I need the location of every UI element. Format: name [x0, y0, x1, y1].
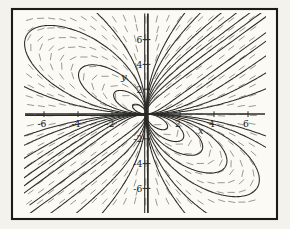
x-tick-label: 2 [175, 118, 181, 129]
x-tick-label: -2 [106, 118, 115, 129]
x-tick-label: 6 [243, 118, 249, 129]
direction-field-plot: -6-4-2246642-2-4-6yx [0, 0, 290, 229]
x-tick-label: 4 [209, 118, 215, 129]
y-axis-name-label: y [120, 71, 127, 82]
y-tick-label: 6 [136, 34, 142, 45]
y-tick-label: -4 [133, 158, 142, 169]
y-tick-label: 4 [136, 59, 142, 70]
scanned-figure-page: -6-4-2246642-2-4-6yx [0, 0, 290, 229]
x-axis-name-label: x [198, 125, 204, 136]
y-tick-label: -6 [133, 183, 142, 194]
x-tick-label: -4 [72, 118, 81, 129]
y-tick-label: 2 [136, 84, 142, 95]
y-tick-label: -2 [133, 133, 142, 144]
x-tick-label: -6 [38, 118, 47, 129]
